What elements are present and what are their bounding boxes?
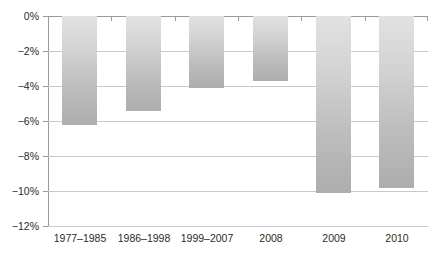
x-tick-boundary-2	[175, 16, 176, 21]
y-axis-label-5: −10%	[0, 186, 39, 197]
gridline-8	[48, 156, 428, 157]
y-axis-label-1: −2%	[0, 46, 39, 57]
y-axis-label-6: −12%	[0, 221, 39, 232]
gridline-10	[48, 191, 428, 192]
gridline-4	[48, 86, 428, 87]
x-tick-boundary-5	[365, 16, 366, 21]
x-axis-label-2008: 2008	[239, 233, 303, 244]
y-axis-label-4: −8%	[0, 151, 39, 162]
gridline-12	[48, 226, 428, 227]
bar-1999-2007	[189, 16, 224, 88]
bar-2009	[316, 16, 351, 193]
x-tick-boundary-4	[301, 16, 302, 21]
x-axis-label-2010: 2010	[365, 233, 429, 244]
x-axis-label-2009: 2009	[302, 233, 366, 244]
bar-2008	[253, 16, 288, 81]
gridline-6	[48, 121, 428, 122]
y-axis-label-3: −6%	[0, 116, 39, 127]
x-axis-label-1986-1998: 1986–1998	[112, 233, 176, 244]
bar-chart: 0% −2% −4% −6% −8% −10% −12%	[0, 0, 439, 261]
x-tick-boundary-6	[427, 16, 428, 21]
x-axis-label-1977-1985: 1977–1985	[48, 233, 112, 244]
gridline-2	[48, 51, 428, 52]
x-tick-boundary-1	[111, 16, 112, 21]
bar-2010	[379, 16, 414, 188]
y-axis-label-2: −4%	[0, 81, 39, 92]
bar-1986-1998	[126, 16, 161, 111]
x-axis-label-1999-2007: 1999–2007	[175, 233, 239, 244]
x-tick-boundary-3	[238, 16, 239, 21]
y-axis-label-0: 0%	[0, 11, 39, 22]
bar-1977-1985	[62, 16, 97, 125]
plot-area	[48, 16, 428, 226]
